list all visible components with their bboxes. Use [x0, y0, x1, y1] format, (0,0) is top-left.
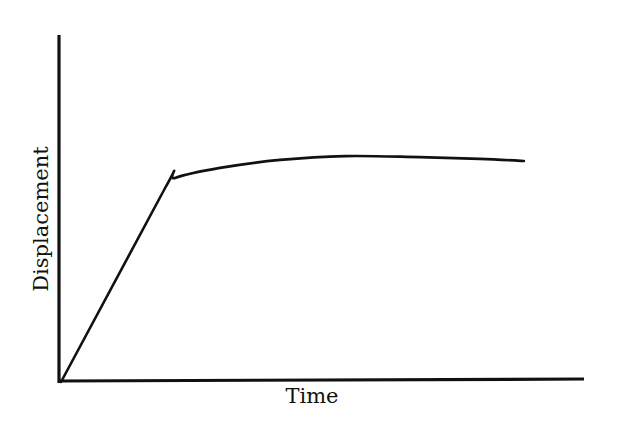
x-axis — [59, 379, 584, 381]
x-axis-label: Time — [262, 384, 362, 408]
chart-canvas — [0, 0, 618, 430]
displacement-curve — [61, 156, 524, 382]
y-axis-label: Displacement — [29, 146, 53, 292]
